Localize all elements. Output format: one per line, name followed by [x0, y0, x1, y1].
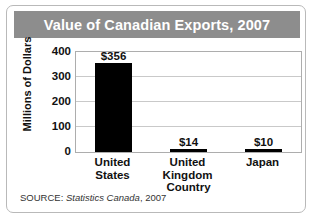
y-axis-tick-label: 200: [37, 96, 71, 108]
bar: [170, 149, 207, 153]
chart-title: Value of Canadian Exports, 2007: [44, 17, 270, 33]
bar-value-label: $14: [156, 136, 221, 148]
bar-group: $356: [95, 52, 132, 152]
y-axis-tick-label: 0: [37, 146, 71, 158]
bar: [95, 63, 132, 152]
bar: [245, 149, 282, 152]
source-publication: Statistics Canada: [66, 192, 140, 203]
y-axis-tick-label: 400: [37, 46, 71, 58]
bar-group: $14: [170, 52, 207, 152]
chart-figure-frame: Value of Canadian Exports, 2007 Millions…: [6, 5, 306, 213]
y-axis-title: Millions of Dollars: [21, 34, 33, 134]
bar-series: $356$14$10: [76, 52, 301, 152]
bar-value-label: $356: [81, 50, 146, 62]
source-year: , 2007: [140, 192, 166, 203]
bar-value-label: $10: [231, 136, 296, 148]
plot-area: $356$14$10: [75, 51, 302, 153]
bar-group: $10: [245, 52, 282, 152]
chart-plot-container: Millions of Dollars 0100200300400 $356$1…: [7, 38, 307, 190]
y-axis-tick-label: 300: [37, 71, 71, 83]
chart-title-bar: Value of Canadian Exports, 2007: [14, 11, 300, 38]
category-label-line: Japan: [218, 156, 308, 169]
source-label: SOURCE:: [20, 192, 63, 203]
source-note: SOURCE: Statistics Canada, 2007: [20, 192, 166, 203]
y-axis-tick-label: 100: [37, 121, 71, 133]
x-axis-category-label: Japan: [218, 156, 308, 169]
category-label-line: Kingdom: [143, 169, 233, 182]
y-axis-tick-labels: 0100200300400: [37, 38, 71, 158]
